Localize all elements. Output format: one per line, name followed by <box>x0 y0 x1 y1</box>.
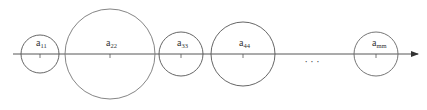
circle-label: a44 <box>239 37 251 49</box>
circle-label: a22 <box>106 37 117 49</box>
circle-label: amm <box>372 37 387 49</box>
circle-diagram: a11a22a33a44amm · · · <box>0 0 427 110</box>
ellipsis: · · · <box>305 56 320 67</box>
circle-label: a11 <box>36 37 47 49</box>
circle-label: a33 <box>177 37 188 49</box>
